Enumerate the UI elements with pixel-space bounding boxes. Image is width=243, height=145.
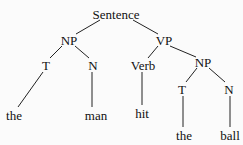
tree-node-w3: hit [135, 107, 149, 120]
tree-edge [133, 20, 158, 34]
syntax-tree-diagram: SentenceNPVPTNVerbNPTNthemanhittheball [0, 0, 243, 145]
tree-edge [170, 46, 196, 57]
tree-node-t2: T [178, 83, 186, 96]
tree-node-np2: NP [195, 56, 212, 69]
tree-node-w1: the [6, 109, 22, 122]
tree-node-n1: N [88, 59, 97, 72]
tree-node-t1: T [42, 59, 50, 72]
tree-edge [186, 68, 197, 82]
tree-edges [0, 0, 243, 145]
tree-node-np1: NP [61, 34, 78, 47]
tree-node-w4: the [176, 129, 192, 142]
tree-node-verb: Verb [131, 59, 156, 72]
tree-node-w5: ball [220, 129, 240, 142]
tree-edge [148, 46, 158, 58]
tree-edge [18, 72, 43, 107]
tree-edge [209, 68, 225, 82]
tree-edge [75, 46, 89, 58]
tree-edge [50, 46, 62, 58]
tree-node-vp: VP [156, 34, 173, 47]
tree-node-w2: man [85, 109, 107, 122]
tree-edge [76, 20, 100, 34]
tree-node-s: Sentence [93, 8, 140, 21]
tree-node-n2: N [224, 83, 233, 96]
